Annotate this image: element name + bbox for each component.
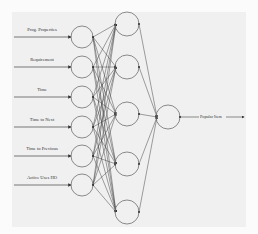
input-node xyxy=(71,145,93,167)
node-dot xyxy=(92,184,94,186)
node-dot xyxy=(92,66,94,68)
output-label: Popular Item xyxy=(200,114,222,119)
output-edge xyxy=(139,67,157,117)
input-label: Time to Previous xyxy=(26,146,57,151)
node-dot xyxy=(138,113,140,115)
hidden-node xyxy=(115,200,139,224)
node-dot xyxy=(179,116,181,118)
input-label: Time to Next xyxy=(30,117,54,122)
hidden-node xyxy=(115,152,139,176)
node-dot xyxy=(92,155,94,157)
node-dot xyxy=(92,36,94,38)
hidden-node xyxy=(115,55,139,79)
input-node xyxy=(71,56,93,78)
input-label: Requirement xyxy=(30,57,54,62)
input-node xyxy=(71,116,93,138)
input-node xyxy=(71,174,93,196)
output-edge xyxy=(139,24,157,117)
weight-edge xyxy=(93,37,116,164)
input-label: Prog. Properties xyxy=(27,27,57,32)
node-dot xyxy=(138,23,140,25)
output-node xyxy=(156,105,180,129)
output-edge xyxy=(139,117,157,212)
output-edge xyxy=(139,117,157,164)
node-dot xyxy=(92,96,94,98)
node-dot xyxy=(138,66,140,68)
hidden-node xyxy=(115,12,139,36)
node-dot xyxy=(138,163,140,165)
hidden-node xyxy=(115,102,139,126)
input-node xyxy=(71,26,93,48)
node-dot xyxy=(138,211,140,213)
output-edge xyxy=(139,114,157,117)
input-label: Active Uses HO xyxy=(27,175,57,180)
input-node xyxy=(71,86,93,108)
input-label: Time xyxy=(37,87,47,92)
node-dot xyxy=(92,126,94,128)
